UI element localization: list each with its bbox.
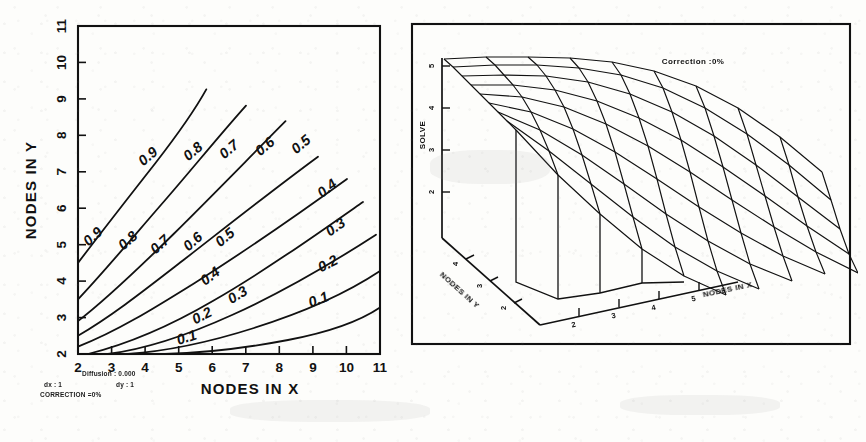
surface-wireframe — [444, 57, 858, 295]
surface-y-ticks — [466, 255, 522, 303]
svg-text:0.8: 0.8 — [115, 227, 141, 253]
svg-text:0.2: 0.2 — [315, 252, 340, 275]
svg-text:3: 3 — [475, 284, 484, 288]
caption-correction: CORRECTION =0% — [40, 391, 102, 398]
surface-skirt — [516, 130, 684, 299]
svg-text:4: 4 — [651, 303, 658, 313]
svg-text:3: 3 — [54, 313, 69, 321]
svg-text:0.6: 0.6 — [180, 228, 206, 254]
svg-text:4: 4 — [427, 105, 436, 110]
svg-text:0.1: 0.1 — [306, 288, 330, 310]
surface-title: Correction :0% — [662, 57, 725, 66]
surface-axes — [442, 58, 738, 325]
caption-dy: dy : 1 — [116, 381, 134, 388]
contour-caption-block: Diffusion : 0.000 dx : 1 dy : 1 CORRECTI… — [0, 365, 410, 413]
svg-text:5: 5 — [691, 294, 697, 304]
svg-text:11: 11 — [54, 18, 69, 33]
surface-zlabel: SOLVE — [418, 120, 427, 149]
contour-labels-lower: 0.9 0.8 0.7 0.6 0.5 0.4 0.3 0.2 0.1 — [80, 224, 250, 348]
svg-text:0.5: 0.5 — [212, 224, 238, 250]
svg-text:5: 5 — [427, 64, 436, 68]
svg-text:4: 4 — [54, 277, 69, 285]
surface-z-ticklabels: 5 4 3 2 — [427, 64, 436, 194]
surface-x-ticklabels: 2 3 4 5 — [571, 294, 697, 330]
svg-text:3: 3 — [427, 148, 436, 152]
surface-ylabel: NODES IN Y — [438, 270, 481, 310]
surface-plot-panel: Correction :0% 5 4 3 2 SOLVE — [408, 20, 858, 390]
svg-text:2: 2 — [499, 306, 508, 310]
contour-line-0.8 — [78, 106, 246, 300]
contour-line-0.4 — [88, 202, 363, 354]
svg-text:0.7: 0.7 — [216, 136, 242, 162]
svg-text:8: 8 — [54, 131, 69, 139]
caption-diffusion: Diffusion : 0.000 — [82, 370, 136, 377]
svg-text:0.3: 0.3 — [225, 283, 251, 307]
svg-text:3: 3 — [611, 311, 617, 321]
contour-line-0.5 — [78, 179, 347, 347]
figure-page: 2 3 4 5 6 7 8 9 10 11 2 3 4 5 6 7 8 9 10… — [0, 0, 866, 442]
svg-text:0.5: 0.5 — [288, 131, 314, 157]
svg-text:0.4: 0.4 — [314, 176, 340, 201]
scan-smudge — [620, 395, 780, 415]
contour-y-ticklabels: 2 3 4 5 6 7 8 9 10 11 — [54, 18, 69, 357]
svg-text:7: 7 — [54, 168, 69, 176]
contour-ylabel: NODES IN Y — [22, 141, 39, 239]
contour-y-ticks — [78, 26, 86, 354]
svg-text:9: 9 — [54, 95, 69, 103]
surface-x-ticks — [579, 282, 699, 316]
surface-z-ticks — [442, 66, 450, 192]
svg-text:10: 10 — [54, 55, 69, 70]
caption-dx: dx : 1 — [44, 381, 62, 388]
svg-text:0.9: 0.9 — [135, 144, 161, 169]
surface-plot-frame — [412, 24, 850, 344]
svg-text:2: 2 — [427, 190, 436, 194]
svg-text:2: 2 — [571, 320, 577, 330]
svg-text:0.3: 0.3 — [322, 215, 348, 240]
svg-text:5: 5 — [54, 240, 69, 248]
svg-text:0.6: 0.6 — [252, 133, 278, 159]
svg-text:4: 4 — [451, 261, 460, 266]
svg-text:2: 2 — [54, 350, 69, 358]
svg-text:0.8: 0.8 — [180, 138, 206, 164]
svg-text:6: 6 — [54, 204, 69, 212]
svg-text:0.7: 0.7 — [147, 231, 173, 257]
